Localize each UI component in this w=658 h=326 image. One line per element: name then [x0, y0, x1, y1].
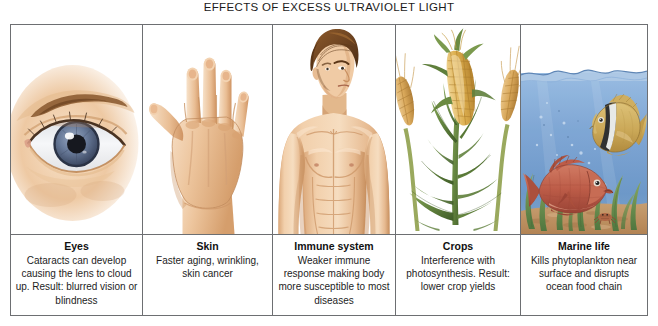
illustration-male-torso: [273, 25, 395, 234]
caption-skin: Skin Faster aging, wrinkling, skin cance…: [143, 234, 272, 315]
caption-immune-system: Immune system Weaker immune response mak…: [273, 234, 395, 315]
illustration-back-of-hand: [143, 25, 272, 234]
caption-marine-life: Marine life Kills phytoplankton near sur…: [521, 234, 647, 315]
illustration-underwater-fish-scene: [521, 25, 647, 234]
caption-body: Faster aging, wrinkling, skin cancer: [147, 254, 268, 280]
caption-heading: Immune system: [277, 240, 391, 253]
panel-skin[interactable]: Skin Faster aging, wrinkling, skin cance…: [143, 25, 273, 315]
caption-body: Weaker immune response making body more …: [277, 254, 391, 307]
panel-marine-life[interactable]: Marine life Kills phytoplankton near sur…: [521, 25, 647, 315]
caption-body: Kills phytoplankton near surface and dis…: [525, 254, 643, 294]
panel-crops[interactable]: Crops Interference with photosynthesis. …: [396, 25, 521, 315]
panel-eyes[interactable]: Eyes Cataracts can develop causing the l…: [11, 25, 143, 315]
caption-heading: Skin: [147, 240, 268, 253]
caption-heading: Eyes: [15, 240, 138, 253]
infographic-poster: EFFECTS OF EXCESS ULTRAVIOLET LIGHT: [0, 0, 658, 326]
panel-immune-system[interactable]: Immune system Weaker immune response mak…: [273, 25, 396, 315]
caption-crops: Crops Interference with photosynthesis. …: [396, 234, 520, 315]
illustration-corn-and-wheat: [396, 25, 520, 234]
caption-heading: Crops: [400, 240, 516, 253]
illustration-human-eye-closeup: [11, 25, 142, 234]
caption-body: Cataracts can develop causing the lens t…: [15, 254, 138, 307]
page-title: EFFECTS OF EXCESS ULTRAVIOLET LIGHT: [0, 1, 658, 13]
caption-body: Interference with photosynthesis. Result…: [400, 254, 516, 294]
caption-heading: Marine life: [525, 240, 643, 253]
caption-eyes: Eyes Cataracts can develop causing the l…: [11, 234, 142, 315]
panel-grid: Eyes Cataracts can develop causing the l…: [10, 24, 648, 316]
